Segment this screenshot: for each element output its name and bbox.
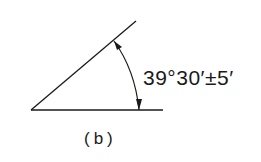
- angle-dimension-label: 39°30′±5′: [143, 66, 234, 90]
- arrowhead-bottom-icon: [136, 99, 142, 110]
- angle-dimension-diagram: 39°30′±5′ (b): [0, 0, 261, 162]
- dimension-arc: [114, 41, 139, 110]
- slanted-line: [31, 21, 136, 110]
- figure-caption: (b): [84, 129, 117, 149]
- arrowhead-top-icon: [114, 41, 122, 50]
